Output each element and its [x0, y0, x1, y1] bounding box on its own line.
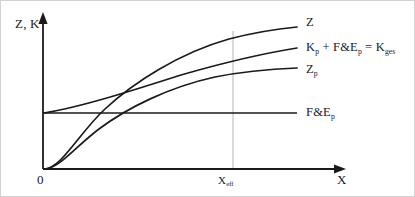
curve-z: [44, 27, 297, 169]
curve-label-fep-sub: p: [331, 112, 335, 121]
x-axis-label: X: [337, 173, 347, 186]
kges-sub-p2: p: [358, 47, 362, 56]
x-eff-tick-label: Xeff: [218, 175, 234, 186]
kges-term-fe: + F&E: [319, 40, 358, 54]
curve-label-kges: Kp + F&Ep = Kges: [306, 41, 395, 54]
y-axis-label: Z, K: [15, 17, 40, 30]
x-eff-tick-sub: eff: [226, 180, 233, 187]
chart-figure: Z, K X 0 Xeff Z Kp + F&Ep = Kges Zp F&Ep: [0, 0, 415, 197]
curve-label-zp-base: Z: [306, 62, 314, 76]
curve-label-zp: Zp: [306, 63, 318, 76]
x-eff-tick-base: X: [218, 174, 226, 186]
kges-term-equals: = K: [362, 40, 385, 54]
curve-label-zp-sub: p: [314, 69, 318, 78]
kges-sub-p1: p: [315, 47, 319, 56]
kges-term-kp: K: [306, 40, 315, 54]
curve-label-fep-base: F&E: [306, 105, 331, 119]
kges-sub-ges: ges: [385, 47, 395, 56]
curve-label-fep: F&Ep: [306, 106, 335, 119]
curve-zp: [44, 68, 297, 169]
plot-area: [1, 1, 415, 197]
curve-label-z-base: Z: [306, 15, 314, 29]
origin-label: 0: [37, 173, 44, 186]
curve-label-z: Z: [306, 16, 314, 29]
curve-kges: [44, 48, 297, 113]
